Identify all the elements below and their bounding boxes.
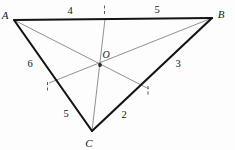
segment-label-5-ab: 5	[154, 4, 159, 15]
segment-label-6: 6	[27, 58, 32, 69]
geometry-figure: A B C O 4 5 6 5 2 3	[0, 0, 235, 150]
side-BC	[92, 18, 212, 131]
cevian-from-A-to-BC	[14, 20, 149, 89]
side-AC	[14, 20, 92, 131]
vertex-label-B: B	[218, 8, 225, 20]
segment-label-4: 4	[67, 5, 73, 16]
center-label-O: O	[102, 49, 109, 60]
segment-label-3: 3	[175, 58, 180, 69]
center-point-dot	[98, 63, 102, 67]
cevian-from-C-to-AB	[92, 19, 105, 131]
cevian-group	[14, 18, 212, 131]
side-AB	[14, 18, 212, 20]
vertex-label-A: A	[1, 9, 9, 21]
geometry-canvas: A B C O 4 5 6 5 2 3	[0, 0, 235, 150]
segment-label-5-ac: 5	[63, 108, 68, 119]
vertex-label-C: C	[85, 137, 93, 149]
segment-label-2: 2	[121, 109, 126, 120]
